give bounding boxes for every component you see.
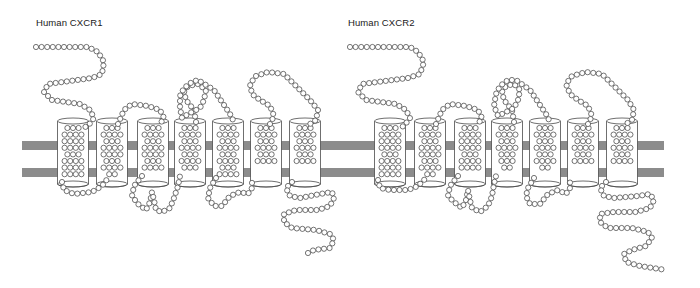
amino-acid-residue [187, 125, 192, 130]
amino-acid-residue [638, 208, 643, 213]
amino-acid-residue [419, 132, 424, 137]
amino-acid-residue [79, 139, 84, 144]
amino-acid-residue [425, 165, 430, 170]
amino-acid-residue [507, 165, 512, 170]
amino-acid-residue [145, 158, 150, 163]
amino-acid-residue [648, 265, 653, 270]
amino-acid-residue [493, 96, 498, 101]
amino-acid-residue [79, 158, 84, 163]
amino-acid-residue [617, 195, 622, 200]
amino-acid-residue [436, 165, 441, 170]
amino-acid-residue [515, 78, 520, 83]
amino-acid-residue [503, 99, 508, 104]
amino-acid-residue [70, 125, 75, 130]
amino-acid-residue [430, 165, 435, 170]
amino-acid-residue [156, 125, 161, 130]
amino-acid-residue [513, 145, 518, 150]
amino-acid-residue [450, 102, 455, 107]
amino-acid-residue [418, 181, 423, 186]
amino-acid-residue [123, 106, 128, 111]
amino-acid-residue [115, 139, 120, 144]
amino-acid-residue [64, 188, 69, 193]
amino-acid-residue [112, 152, 117, 157]
amino-acid-residue [203, 82, 208, 87]
amino-acid-residue [310, 248, 315, 253]
amino-acid-residue [473, 125, 478, 130]
amino-acid-residue [608, 225, 613, 230]
amino-acid-residue [606, 194, 611, 199]
amino-acid-residue [305, 132, 310, 137]
amino-acid-residue [148, 132, 153, 137]
amino-acid-residue [499, 158, 504, 163]
amino-acid-residue [569, 74, 574, 79]
amino-acid-residue [367, 80, 372, 85]
amino-acid-residue [263, 125, 268, 130]
amino-acid-residue [213, 175, 218, 180]
amino-acid-residue [82, 104, 87, 109]
amino-acid-residue [308, 139, 313, 144]
amino-acid-residue [131, 187, 136, 192]
amino-acid-residue [540, 165, 545, 170]
amino-acid-residue [629, 194, 634, 199]
amino-acid-residue [601, 193, 606, 198]
amino-acid-residue [73, 172, 78, 177]
amino-acid-residue [583, 158, 588, 163]
amino-acid-residue [311, 227, 316, 232]
amino-acid-residue [59, 80, 64, 85]
amino-acid-residue [159, 165, 164, 170]
amino-acid-residue [433, 121, 438, 126]
amino-acid-residue [70, 152, 75, 157]
amino-acid-residue [459, 158, 464, 163]
amino-acid-residue [385, 158, 390, 163]
amino-acid-residue [183, 94, 188, 99]
amino-acid-residue [250, 78, 255, 83]
amino-acid-residue [461, 103, 466, 108]
amino-acid-residue [385, 139, 390, 144]
amino-acid-residue [294, 226, 299, 231]
amino-acid-residue [159, 119, 164, 124]
amino-acid-residue [614, 139, 619, 144]
amino-acid-residue [396, 132, 401, 137]
amino-acid-residue [177, 98, 182, 103]
amino-acid-residue [231, 139, 236, 144]
amino-acid-residue [605, 77, 610, 82]
amino-acid-residue [436, 145, 441, 150]
amino-acid-residue [202, 94, 207, 99]
amino-acid-residue [84, 44, 89, 49]
amino-acid-residue [476, 109, 481, 114]
amino-acid-residue [477, 119, 482, 124]
amino-acid-residue [65, 152, 70, 157]
amino-acid-residue [493, 107, 498, 112]
amino-acid-residue [502, 165, 507, 170]
amino-acid-residue [190, 158, 195, 163]
amino-acid-residue [622, 145, 627, 150]
amino-acid-residue [504, 158, 509, 163]
amino-acid-residue [272, 158, 277, 163]
amino-acid-residue [263, 152, 268, 157]
amino-acid-residue [270, 116, 275, 121]
amino-acid-residue [308, 121, 313, 126]
amino-acid-residue [69, 191, 74, 196]
amino-acid-residue [459, 145, 464, 150]
amino-acid-residue [109, 139, 114, 144]
amino-acid-residue [643, 244, 648, 249]
amino-acid-residue [225, 165, 230, 170]
amino-acid-residue [646, 230, 651, 235]
amino-acid-residue [101, 132, 106, 137]
amino-acid-residue [528, 88, 533, 93]
amino-acid-residue [356, 90, 361, 95]
amino-acid-residue [223, 172, 228, 177]
amino-acid-residue [62, 172, 67, 177]
amino-acid-residue [185, 145, 190, 150]
amino-acid-residue [390, 139, 395, 144]
amino-acid-residue [330, 191, 335, 196]
amino-acid-residue [455, 173, 460, 178]
amino-acid-residue [379, 145, 384, 150]
amino-acid-residue [383, 78, 388, 83]
amino-acid-residue [100, 58, 105, 63]
amino-acid-residue [490, 190, 495, 195]
amino-acid-residue [292, 208, 297, 213]
amino-acid-residue [298, 195, 303, 200]
amino-acid-residue [430, 152, 435, 157]
amino-acid-residue [107, 165, 112, 170]
